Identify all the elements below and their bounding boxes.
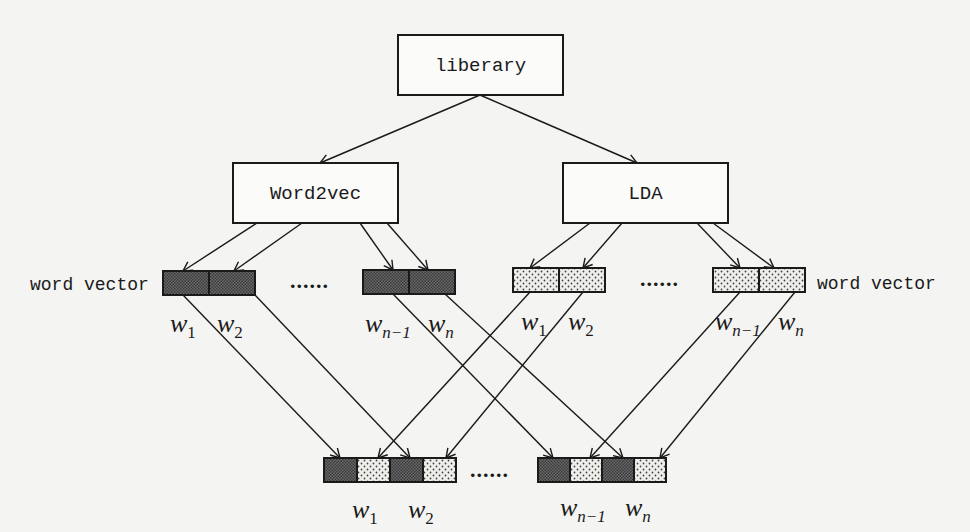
word2vec-vector-w1-w2 — [163, 271, 255, 295]
left-word-vector-label: word vector — [30, 275, 149, 295]
lda-label: LDA — [628, 183, 663, 205]
word2vec-vector-wn1-wn — [363, 270, 455, 294]
svg-text:wn−1: wn−1 — [560, 493, 606, 526]
top-word-labels: w1 w2 wn−1 wn w1 w2 wn−1 wn — [170, 307, 804, 342]
root-node: liberary — [398, 35, 563, 95]
svg-text:w2: w2 — [217, 309, 243, 342]
bottom-word-labels: w1 w2 wn−1 wn — [352, 493, 651, 528]
arrow-root-to-lda — [480, 95, 637, 163]
ellipsis-right: ...... — [640, 266, 679, 291]
word2vec-node: Word2vec — [233, 163, 398, 223]
arrow-root-to-word2vec — [320, 95, 480, 163]
lda-vector-wn1-wn — [713, 268, 805, 292]
svg-text:w1: w1 — [521, 307, 547, 340]
svg-text:w1: w1 — [352, 495, 378, 528]
ellipsis-bottom: ...... — [470, 457, 509, 482]
root-label: liberary — [435, 55, 526, 77]
model-to-vector-arrows — [183, 223, 774, 271]
lda-vector-w1-w2 — [513, 268, 605, 292]
word2vec-lda-fusion-diagram: liberary Word2vec LDA word vector word v… — [0, 0, 970, 532]
svg-text:w1: w1 — [170, 309, 196, 342]
right-word-vector-label: word vector — [817, 274, 936, 294]
svg-text:wn: wn — [778, 307, 804, 340]
lda-node: LDA — [563, 163, 728, 223]
combined-vector-wn1-wn — [538, 458, 666, 482]
ellipsis-left: ...... — [290, 268, 329, 293]
word2vec-label: Word2vec — [270, 183, 361, 205]
svg-text:wn: wn — [625, 493, 651, 526]
vector-to-combined-arrows — [183, 292, 795, 458]
combined-vector-w1-w2 — [324, 458, 456, 482]
svg-text:wn−1: wn−1 — [365, 309, 411, 342]
root-arrows — [320, 95, 637, 163]
svg-text:w2: w2 — [408, 495, 434, 528]
svg-text:w2: w2 — [568, 307, 594, 340]
svg-text:wn: wn — [428, 309, 454, 342]
